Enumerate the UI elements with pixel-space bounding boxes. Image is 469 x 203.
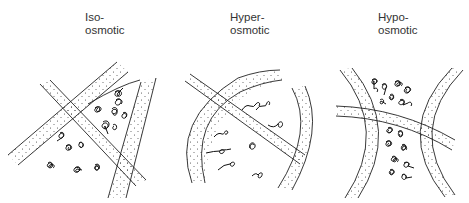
panel-hyper-osmotic	[185, 70, 313, 190]
fiber	[340, 68, 379, 198]
panel-iso-osmotic	[8, 62, 156, 198]
fiber	[336, 106, 455, 150]
panel-hypo-osmotic	[336, 68, 463, 198]
fiber	[278, 86, 313, 190]
osmotic-diagram	[0, 0, 469, 203]
